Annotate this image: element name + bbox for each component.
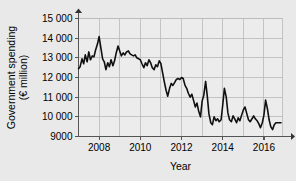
x-tick-label: 2008 [88, 142, 111, 153]
chart-container: 900010 00011 00012 00013 00014 00015 000… [0, 0, 296, 181]
y-axis-title-line2: (€ million) [17, 55, 29, 101]
y-tick-label: 12 000 [42, 72, 73, 83]
line-chart: 900010 00011 00012 00013 00014 00015 000… [0, 0, 296, 181]
y-axis-title-line1: Government spending [5, 26, 17, 129]
x-tick-label: 2016 [253, 142, 276, 153]
y-tick-label: 11 000 [43, 92, 73, 103]
y-tick-label: 10 000 [42, 111, 73, 122]
x-tick-label: 2014 [212, 142, 235, 153]
x-tick-label: 2010 [129, 142, 152, 153]
y-tick-label: 15 000 [42, 13, 73, 24]
y-tick-label: 13 000 [42, 52, 73, 63]
x-axis-title: Year [170, 160, 192, 172]
y-tick-label: 9000 [50, 131, 73, 142]
y-tick-label: 14 000 [42, 33, 73, 44]
x-tick-label: 2012 [170, 142, 193, 153]
